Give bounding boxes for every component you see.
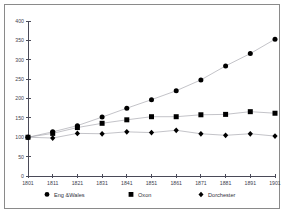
data-point-diamond-marker xyxy=(272,133,277,139)
y-tick-label: 200 xyxy=(15,95,24,101)
x-tick-label: 1811 xyxy=(47,180,58,186)
legend-item-label: Eng &Wales xyxy=(54,192,85,198)
data-point-diamond-marker xyxy=(75,131,80,137)
data-point-square-marker xyxy=(75,125,80,130)
data-point-square-marker xyxy=(223,112,228,117)
x-tick-label: 1841 xyxy=(121,180,133,186)
legend-item-diamond[interactable]: Dorchester xyxy=(198,192,235,198)
chart-legend: Eng &WalesOxonDorchester xyxy=(45,192,236,198)
data-series-group xyxy=(25,37,277,141)
y-tick-label: 300 xyxy=(15,57,24,63)
series-line-path xyxy=(28,39,275,137)
data-point-diamond-marker xyxy=(124,129,129,135)
data-point-diamond-marker xyxy=(50,135,55,141)
data-point-square-marker xyxy=(198,112,203,117)
data-point-square-marker xyxy=(273,111,278,116)
x-tick-label: 1891 xyxy=(245,180,257,186)
legend-item-label: Oxon xyxy=(138,192,151,198)
data-point-diamond-marker xyxy=(223,132,228,138)
x-tick-label: 1881 xyxy=(220,180,232,186)
y-tick-label: 350 xyxy=(15,37,24,43)
x-tick-label: 1871 xyxy=(195,180,207,186)
data-point-circle-marker xyxy=(100,115,105,120)
x-tick-label: 1901 xyxy=(269,180,281,186)
data-point-diamond-marker xyxy=(99,131,104,137)
legend-item-square[interactable]: Oxon xyxy=(129,192,152,198)
data-point-square-marker xyxy=(174,114,179,119)
data-point-circle-marker xyxy=(124,106,129,111)
legend-item-circle[interactable]: Eng &Wales xyxy=(45,192,85,198)
data-point-diamond-marker xyxy=(174,127,179,133)
y-tick-label: 400 xyxy=(15,18,24,24)
data-point-square-marker xyxy=(129,192,134,197)
data-point-square-marker xyxy=(50,131,55,136)
data-point-circle-marker xyxy=(45,192,50,197)
data-point-square-marker xyxy=(248,109,253,114)
y-tick-label: 100 xyxy=(15,134,24,140)
y-tick-label: 150 xyxy=(15,115,24,121)
data-point-square-marker xyxy=(100,121,105,126)
data-point-circle-marker xyxy=(174,88,179,93)
x-tick-label: 1821 xyxy=(72,180,84,186)
chart-frame: 050100150200250300350400 180118111821183… xyxy=(4,4,280,209)
data-point-circle-marker xyxy=(223,63,228,68)
data-point-circle-marker xyxy=(248,51,253,56)
x-tick-label: 1861 xyxy=(170,180,182,186)
data-point-circle-marker xyxy=(198,77,203,82)
data-point-diamond-marker xyxy=(198,192,203,198)
data-point-circle-marker xyxy=(149,97,154,102)
data-series-circle xyxy=(26,37,278,140)
population-index-line-chart: 050100150200250300350400 180118111821183… xyxy=(5,5,281,210)
y-tick-label: 250 xyxy=(15,76,24,82)
data-point-diamond-marker xyxy=(198,131,203,137)
chart-plot-area: 050100150200250300350400 180118111821183… xyxy=(5,5,281,210)
x-tick-label: 1831 xyxy=(96,180,108,186)
data-point-circle-marker xyxy=(273,37,278,42)
data-point-diamond-marker xyxy=(248,131,253,137)
data-point-square-marker xyxy=(124,117,129,122)
y-tick-label: 0 xyxy=(21,173,24,179)
legend-item-label: Dorchester xyxy=(208,192,235,198)
data-point-square-marker xyxy=(149,114,154,119)
x-tick-label: 1851 xyxy=(146,180,158,186)
data-point-diamond-marker xyxy=(149,130,154,136)
x-tick-label: 1801 xyxy=(22,180,34,186)
y-tick-label: 50 xyxy=(18,154,24,160)
